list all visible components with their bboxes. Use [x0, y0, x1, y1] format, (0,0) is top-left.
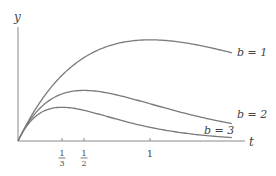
function-plot: y t 1 3 1 2 1 b = 1 b = 2 b = 3	[0, 0, 276, 176]
svg-text:2: 2	[81, 159, 86, 168]
tick-label-one: 1	[147, 148, 153, 159]
x-axis-label: t	[249, 135, 254, 149]
label-b-1: b = 1	[237, 46, 267, 59]
label-b-3: b = 3	[204, 124, 234, 137]
svg-text:3: 3	[59, 159, 64, 168]
curve-b-2	[18, 90, 232, 141]
svg-text:1: 1	[59, 149, 64, 158]
svg-text:1: 1	[81, 149, 86, 158]
tick-label-one-half: 1 2	[81, 149, 88, 168]
y-axis-label: y	[13, 10, 21, 24]
tick-label-one-third: 1 3	[59, 149, 66, 168]
label-b-2: b = 2	[237, 108, 267, 121]
curve-b-3	[18, 107, 232, 141]
curve-b-1	[18, 40, 232, 141]
